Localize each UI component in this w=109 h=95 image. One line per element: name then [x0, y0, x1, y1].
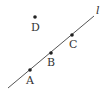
- point-a-label: A: [25, 74, 35, 87]
- point-d-dot: [33, 15, 37, 19]
- point-c-dot: [70, 33, 74, 37]
- line-l-label: l: [96, 4, 100, 17]
- point-c-label: C: [69, 38, 77, 51]
- points-group: ABCD: [25, 15, 77, 87]
- point-a-dot: [28, 68, 32, 72]
- point-d-label: D: [31, 21, 40, 34]
- point-b-dot: [49, 51, 53, 55]
- geometry-diagram: l ABCD: [0, 0, 109, 95]
- point-b-label: B: [47, 56, 55, 69]
